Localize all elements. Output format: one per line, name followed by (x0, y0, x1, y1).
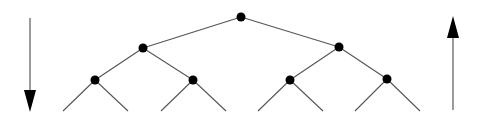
tree-node-rl (286, 76, 295, 85)
leaf-edge (63, 80, 95, 111)
tree-node-root (237, 13, 246, 22)
binary-tree-diagram (0, 0, 486, 121)
leaf-edge (193, 80, 226, 111)
tree-edge (339, 47, 387, 79)
leaf-edge (161, 80, 193, 111)
direction-arrows (24, 16, 459, 112)
down-arrow-icon (24, 18, 36, 112)
up-arrow-icon (447, 16, 459, 110)
leaf-edge (95, 80, 128, 111)
tree-edge (95, 48, 143, 80)
tree-node-lr (189, 76, 198, 85)
leaf-edge (387, 79, 420, 111)
tree-nodes (91, 13, 392, 85)
leaf-edge (290, 80, 323, 111)
leaf-edge (258, 80, 290, 111)
tree-node-rr (383, 75, 392, 84)
leaf-edges (63, 79, 420, 111)
leaf-edge (355, 79, 387, 111)
tree-edge (241, 17, 339, 47)
tree-edge (143, 48, 193, 80)
tree-node-l1 (139, 44, 148, 53)
tree-node-r1 (335, 43, 344, 52)
tree-edge (290, 47, 339, 80)
tree-edge (143, 17, 241, 48)
tree-node-ll (91, 76, 100, 85)
